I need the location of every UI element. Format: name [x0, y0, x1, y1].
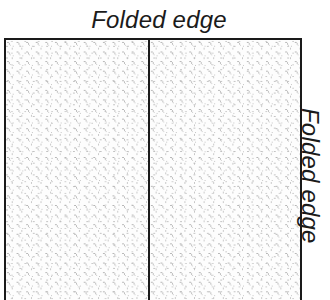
fabric-panel [4, 38, 302, 300]
right-folded-edge-label: Folded edge [297, 108, 323, 278]
center-fold-line [148, 38, 150, 300]
top-folded-edge-label: Folded edge [0, 5, 318, 35]
fabric-texture-wash [6, 40, 300, 300]
